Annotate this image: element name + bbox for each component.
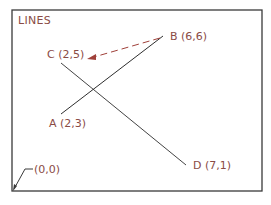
point-label-b: B (6,6) xyxy=(170,31,207,42)
point-label-a: A (2,3) xyxy=(49,118,86,129)
point-label-c: C (2,5) xyxy=(47,49,84,60)
dashed-arrow-b-to-c xyxy=(94,38,160,57)
diagram-title: LINES xyxy=(18,15,51,26)
line-cd xyxy=(61,63,186,165)
arrowhead-icon xyxy=(87,54,96,60)
origin-label: (0,0) xyxy=(34,164,60,175)
point-label-d: D (7,1) xyxy=(193,160,231,171)
